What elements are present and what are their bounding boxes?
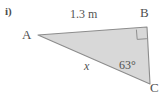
angle-measure-label-c: 63° (119, 59, 136, 71)
triangle-shape (38, 27, 150, 84)
side-length-label-ac: x (84, 60, 89, 72)
vertex-label-c: C (150, 81, 159, 94)
side-length-label-ab: 1.3 m (70, 8, 97, 20)
item-number-label: i) (5, 6, 12, 17)
vertex-label-b: B (140, 6, 149, 19)
figure-canvas: i) A B C 1.3 m x 63° (0, 0, 168, 104)
vertex-label-a: A (22, 28, 31, 41)
